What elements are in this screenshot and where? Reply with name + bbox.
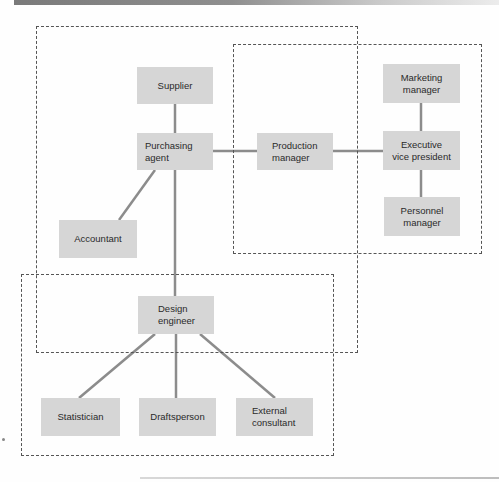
node-purchasing-agent: Purchasing agent (137, 133, 213, 170)
node-accountant: Accountant (59, 220, 137, 258)
node-personnel-manager: Personnel manager (384, 197, 460, 236)
bottom-rule (140, 477, 499, 479)
node-production-manager: Production manager (257, 133, 333, 170)
node-executive-vice-president: Executive vice president (383, 131, 460, 170)
node-marketing-manager: Marketing manager (383, 64, 460, 103)
node-design-engineer: Design engineer (138, 296, 214, 334)
node-draftsperson: Draftsperson (139, 398, 216, 436)
scan-artifact-dot (2, 438, 5, 441)
node-statistician: Statistician (41, 398, 120, 436)
node-supplier: Supplier (137, 67, 213, 104)
node-external-consultant: External consultant (236, 398, 313, 436)
